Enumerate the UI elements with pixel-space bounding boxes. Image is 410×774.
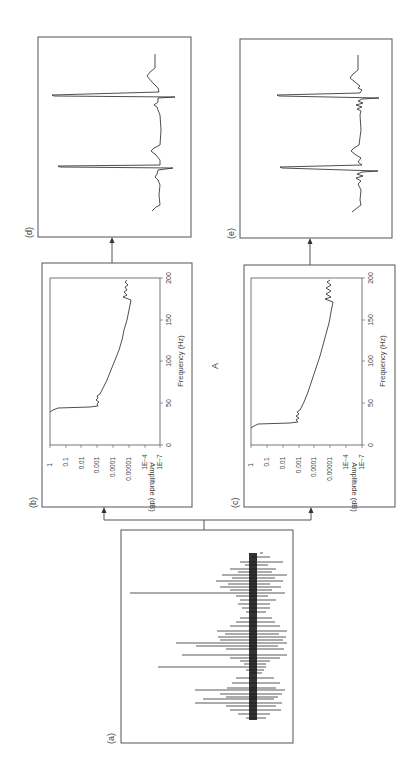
panel-b-frame	[42, 263, 192, 507]
panel-c: (c) 1 0.1 0.01 0.001 0.0001 0.00001 1E−4…	[230, 265, 395, 512]
panel-a-seismic-trace	[130, 553, 287, 720]
panel-b-xticks	[160, 278, 163, 445]
svg-text:200: 200	[367, 272, 374, 284]
panel-a-label: (a)	[106, 733, 116, 744]
svg-text:50: 50	[367, 399, 374, 407]
svg-text:1: 1	[247, 463, 254, 467]
arrow-a-to-b	[102, 507, 107, 513]
panel-b-yticks	[50, 445, 160, 448]
svg-text:0.00001: 0.00001	[326, 457, 333, 481]
panel-b: (b) 1 0.1 0.01 0.001 0.0001 0.00001 1E−4…	[28, 263, 192, 512]
panel-b-xtick-labels: 0 50 100 150 200	[165, 272, 172, 447]
panel-d-label: (d)	[24, 227, 34, 238]
panel-c-xticks	[362, 278, 365, 445]
svg-text:200: 200	[165, 272, 172, 284]
panel-a: (a)	[106, 530, 293, 744]
svg-text:150: 150	[367, 314, 374, 326]
panel-e: (e)	[226, 39, 392, 239]
panel-b-ylabel: Amplitude (dB)	[148, 462, 157, 512]
svg-text:0.001: 0.001	[93, 456, 100, 473]
figure-canvas: (d) (e) (b) 1	[0, 0, 410, 774]
svg-text:100: 100	[165, 355, 172, 367]
svg-text:0.1: 0.1	[263, 457, 270, 466]
svg-text:1E−4: 1E−4	[141, 454, 148, 470]
panel-b-xlabel: Frequency (Hz)	[176, 335, 185, 387]
figure-caption-letter: A	[210, 363, 220, 369]
panel-d-frame	[38, 37, 191, 237]
svg-text:0.001: 0.001	[295, 456, 302, 473]
svg-text:0.1: 0.1	[62, 457, 69, 466]
panel-e-label: (e)	[226, 228, 236, 239]
panel-e-trace	[277, 55, 379, 212]
svg-text:0.01: 0.01	[279, 456, 286, 469]
panel-b-ytick-labels: 1 0.1 0.01 0.001 0.0001 0.00001 1E−4 1E−…	[46, 454, 163, 481]
svg-text:50: 50	[165, 399, 172, 407]
panel-c-ylabel: Amplitude (dB)	[350, 462, 359, 512]
svg-text:0.0001: 0.0001	[310, 457, 317, 477]
arrow-a-to-c	[309, 507, 314, 513]
panel-b-spectrum-line	[50, 280, 131, 412]
panel-c-ytick-labels: 1 0.1 0.01 0.001 0.0001 0.00001 1E−4 1E−…	[247, 454, 365, 481]
panel-c-xtick-labels: 0 50 100 150 200	[367, 272, 374, 447]
panel-e-frame	[240, 39, 392, 238]
svg-text:100: 100	[367, 355, 374, 367]
panel-c-plot-area	[251, 278, 362, 445]
arrow-b-to-d	[110, 237, 115, 263]
svg-text:0: 0	[367, 443, 374, 447]
panel-c-yticks	[251, 445, 362, 448]
panel-d-trace	[52, 54, 175, 211]
svg-text:1: 1	[46, 463, 53, 467]
panel-b-plot-area	[50, 278, 160, 445]
svg-text:0.00001: 0.00001	[125, 457, 132, 481]
svg-text:0.01: 0.01	[78, 456, 85, 469]
panel-c-frame	[244, 265, 395, 507]
panel-c-spectrum-line	[251, 280, 333, 428]
panel-b-label: (b)	[28, 497, 38, 508]
svg-text:1E−4: 1E−4	[342, 454, 349, 470]
arrow-c-to-e	[308, 238, 313, 265]
connector-a-to-b-c	[104, 513, 311, 530]
svg-text:150: 150	[165, 314, 172, 326]
svg-text:0: 0	[165, 443, 172, 447]
panel-c-label: (c)	[230, 498, 240, 509]
panel-d: (d)	[24, 37, 191, 238]
svg-text:0.0001: 0.0001	[109, 457, 116, 477]
panel-c-xlabel: Frequency (Hz)	[378, 335, 387, 387]
